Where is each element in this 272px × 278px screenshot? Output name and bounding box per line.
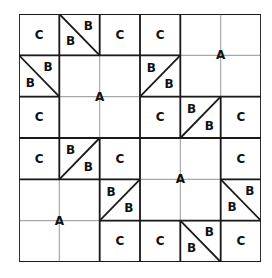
cell-label-c: C: [115, 235, 124, 247]
cell-label-b: B: [187, 242, 196, 254]
cell-label-b: B: [147, 62, 156, 74]
cell-label-b: B: [84, 20, 93, 32]
cell-label-b: B: [106, 186, 115, 198]
cell-label-c: C: [236, 235, 245, 247]
cell-label-c: C: [35, 111, 44, 123]
cell-label-c: C: [115, 153, 124, 165]
cell-label-b: B: [66, 35, 75, 47]
cell-label-b: B: [66, 144, 75, 156]
cell-label-c: C: [156, 111, 165, 123]
cell-label-b: B: [124, 202, 133, 214]
cell-label-b: B: [205, 120, 214, 132]
cell-label-c: C: [156, 235, 165, 247]
cell-label-b: B: [164, 78, 173, 90]
cell-label-b: B: [227, 201, 236, 213]
cell-label-c: C: [35, 153, 44, 165]
cell-label-b: B: [43, 61, 52, 73]
puzzle-grid: CBBCCBBBBCCBBCCBBCCBBBBCCBBCAAAA: [19, 14, 261, 262]
cell-label-b: B: [205, 226, 214, 238]
region-label-a: A: [176, 173, 185, 185]
cell-label-b: B: [84, 161, 93, 173]
region-label-a: A: [55, 215, 64, 227]
region-label-a: A: [95, 91, 104, 103]
cell-label-b: B: [26, 77, 35, 89]
cell-label-b: B: [187, 103, 196, 115]
cell-label-c: C: [236, 111, 245, 123]
cell-label-c: C: [35, 29, 44, 41]
cell-label-c: C: [236, 153, 245, 165]
region-label-a: A: [216, 49, 225, 61]
cell-label-c: C: [115, 29, 124, 41]
cell-label-b: B: [245, 185, 254, 197]
cell-label-c: C: [156, 29, 165, 41]
